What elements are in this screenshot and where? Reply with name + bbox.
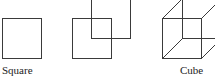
two-offset-squares-figure	[73, 0, 131, 59]
cube-figure	[163, 0, 216, 59]
cube-back-face	[183, 0, 216, 39]
square-label: Square	[2, 64, 33, 76]
square-figure	[3, 19, 42, 59]
cube-label: Cube	[180, 64, 203, 76]
